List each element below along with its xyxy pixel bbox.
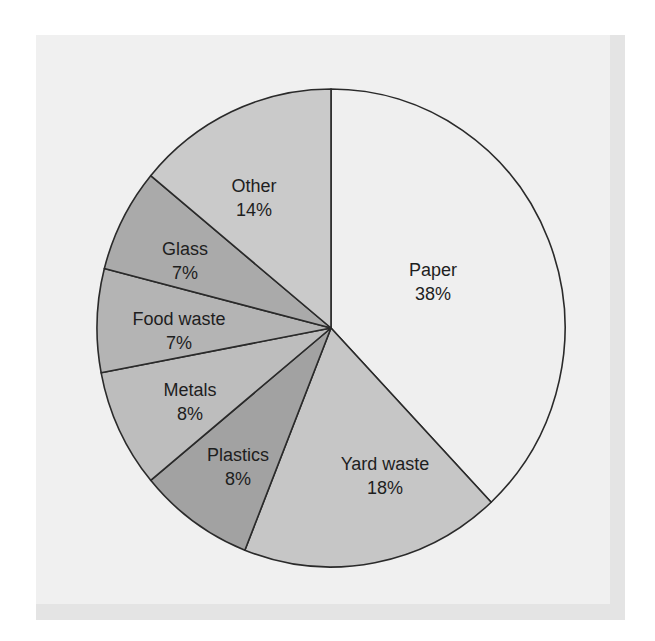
slice-pct-other: 14% — [236, 200, 272, 220]
slice-label-yard-waste: Yard waste — [341, 454, 430, 474]
slice-pct-food-waste: 7% — [166, 333, 192, 353]
pie-chart: Paper 38% Yard waste 18% Plastics 8% Met… — [0, 0, 655, 641]
slice-label-food-waste: Food waste — [132, 309, 225, 329]
slice-pct-glass: 7% — [172, 263, 198, 283]
slice-label-other: Other — [231, 176, 276, 196]
slice-label-metals: Metals — [163, 380, 216, 400]
slice-pct-plastics: 8% — [225, 469, 251, 489]
slice-pct-metals: 8% — [177, 404, 203, 424]
slice-pct-paper: 38% — [415, 284, 451, 304]
slice-label-paper: Paper — [409, 260, 457, 280]
slice-label-plastics: Plastics — [207, 445, 269, 465]
slice-pct-yard-waste: 18% — [367, 478, 403, 498]
slice-label-glass: Glass — [162, 239, 208, 259]
